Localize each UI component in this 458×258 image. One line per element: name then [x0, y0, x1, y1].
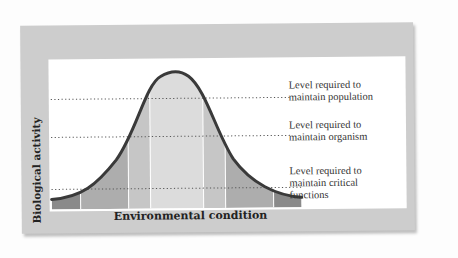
label-critical: Level required to maintain critical func… [289, 165, 362, 202]
label-organism: Level required to maintain organism [289, 119, 367, 144]
zone-stress-right [224, 64, 273, 214]
tolerance-zones [50, 63, 301, 215]
zone-stress-left [79, 65, 128, 215]
diagram-frame: Biological activity Environmental condit… [20, 22, 415, 233]
label-population: Level required to maintain population [289, 79, 373, 104]
zone-optimum [149, 64, 203, 214]
zone-tolerance-left [127, 65, 150, 215]
